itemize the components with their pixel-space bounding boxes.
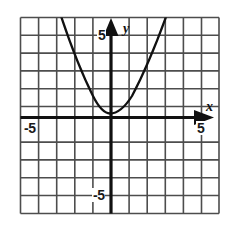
y-axis [104,18,119,214]
graph-figure: 5 -5 5 -5 x y [0,0,230,231]
y-axis-name-label: y [123,22,129,36]
y-axis-tick-label-negative-5: -5 [92,188,105,202]
y-axis-tick-label-5: 5 [97,28,106,42]
x-axis-name-label: x [206,100,213,114]
x-axis-tick-label-5: 5 [196,121,205,135]
grid-lines [21,18,220,214]
x-axis-tick-label-negative-5: -5 [23,121,36,135]
coordinate-plane-plot [0,0,230,231]
